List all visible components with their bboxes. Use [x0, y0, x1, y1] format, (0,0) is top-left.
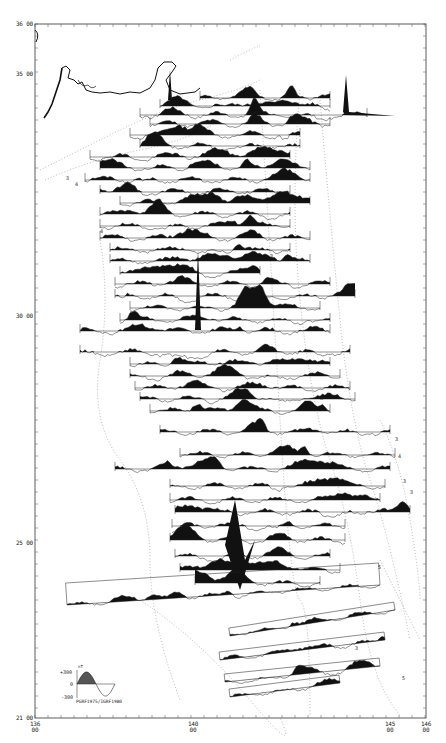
track-profile: [85, 168, 310, 184]
track-profile: [150, 399, 330, 414]
positive-anomaly-fill: [224, 657, 380, 682]
bathymetry-contour: [260, 90, 310, 715]
track-profile: [80, 344, 350, 359]
contour-depth-label: 3: [66, 175, 69, 181]
latitude-label: 36 00: [3, 21, 33, 27]
anomaly-curve: [100, 215, 290, 230]
positive-anomaly-fill: [135, 380, 350, 388]
track-profile: [120, 191, 310, 207]
bathymetry-contour: [230, 45, 260, 60]
track-profile: [172, 519, 345, 533]
positive-anomaly-fill: [115, 284, 355, 296]
bathymetry-contour: [140, 600, 286, 735]
oblique-track-profile: [229, 675, 340, 700]
contour-depth-label: 3: [410, 489, 413, 495]
anomaly-curve: [160, 418, 390, 436]
track-box: [219, 632, 385, 660]
track-profile: [100, 215, 290, 230]
longitude-label: 14000: [183, 721, 203, 733]
positive-anomaly-fill: [120, 264, 260, 273]
latitude-label: 25 00: [3, 540, 33, 546]
longitude-label: 13600: [25, 721, 45, 733]
positive-anomaly-fill: [170, 478, 385, 486]
track-profile: [160, 418, 390, 436]
spike-anomaly: [343, 75, 395, 116]
positive-anomaly-fill: [120, 191, 310, 203]
contour-depth-label: 3: [320, 395, 323, 401]
legend-caption: PGRF1975/IGRF1980: [76, 699, 122, 704]
track-profile: [175, 547, 330, 562]
positive-anomaly-fill: [100, 182, 290, 192]
contour-depth-label: 5: [378, 564, 381, 570]
track-profile: [115, 284, 355, 303]
latitude-label: 35 00: [3, 71, 33, 77]
coastline-path: [78, 80, 96, 88]
track-profile: [130, 364, 340, 381]
anomaly-curve: [80, 324, 330, 335]
contour-depth-label: 4: [100, 228, 103, 234]
track-profile: [115, 276, 330, 289]
track-profile: [180, 445, 395, 458]
track-profile: [100, 229, 310, 242]
anomaly-curve: [175, 547, 330, 562]
positive-anomaly-fill: [80, 344, 350, 352]
positive-anomaly-fill: [130, 357, 330, 364]
track-profile: [100, 182, 290, 196]
track-profile: [170, 493, 380, 504]
oblique-profiles: [66, 563, 396, 700]
positive-anomaly-fill: [90, 146, 290, 157]
track-profile: [100, 159, 310, 171]
positive-anomaly-fill: [175, 502, 410, 512]
legend-unit-label: nT: [78, 664, 83, 669]
track-profile: [170, 524, 345, 544]
track-profile: [180, 559, 340, 574]
track-profile: [120, 311, 330, 325]
magnetic-anomaly-map: 36 0035 0030 0025 0021 00 13600140001450…: [0, 0, 446, 743]
spike-anomaly: [168, 70, 172, 100]
legend-zero-label: 0: [70, 681, 73, 687]
map-canvas: [0, 0, 446, 743]
contour-depth-label: 4: [398, 453, 401, 459]
coastline-path: [44, 68, 62, 118]
anomaly-curve: [120, 311, 330, 325]
legend-curve: [77, 670, 115, 698]
bathymetry-contour: [380, 560, 420, 640]
latitude-label: 30 00: [3, 313, 33, 319]
positive-anomaly-fill: [220, 636, 385, 660]
positive-anomaly-fill: [180, 559, 340, 571]
track-profile: [130, 357, 330, 367]
oblique-track-profile: [229, 602, 396, 638]
anomaly-profiles: [80, 70, 410, 590]
positive-anomaly-fill: [180, 445, 395, 455]
contour-depth-label: 3: [270, 253, 273, 259]
bathymetry-contour: [320, 100, 410, 640]
track-profile: [110, 243, 290, 254]
positive-anomaly-fill: [170, 493, 380, 500]
anomaly-curve: [115, 284, 355, 303]
longitude-label: 14600: [416, 721, 436, 733]
track-profile: [115, 457, 390, 473]
positive-anomaly-fill: [200, 86, 330, 98]
track-profile: [120, 264, 260, 278]
oblique-track-profile: [224, 657, 380, 687]
coastline-path: [35, 30, 200, 94]
anomaly-curve: [115, 457, 390, 473]
contour-depth-label: 3: [395, 436, 398, 442]
anomaly-curve: [115, 276, 330, 289]
contour-depth-label: 3: [403, 478, 406, 484]
track-profile: [130, 285, 320, 312]
legend-plus-label: +300: [60, 669, 72, 675]
positive-anomaly-fill: [110, 244, 290, 250]
track-profile: [170, 478, 385, 492]
track-profile: [90, 146, 290, 161]
spike-anomaly: [195, 250, 201, 330]
contour-depth-label: 4: [75, 181, 78, 187]
contour-depth-label: 3: [355, 645, 358, 651]
oblique-track-profile: [219, 632, 385, 663]
anomaly-curve: [200, 86, 330, 101]
track-profile: [200, 86, 330, 101]
anomaly-curve: [172, 522, 345, 533]
contour-depth-label: 5: [402, 675, 405, 681]
longitude-label: 14500: [380, 721, 400, 733]
track-profile: [80, 324, 330, 335]
